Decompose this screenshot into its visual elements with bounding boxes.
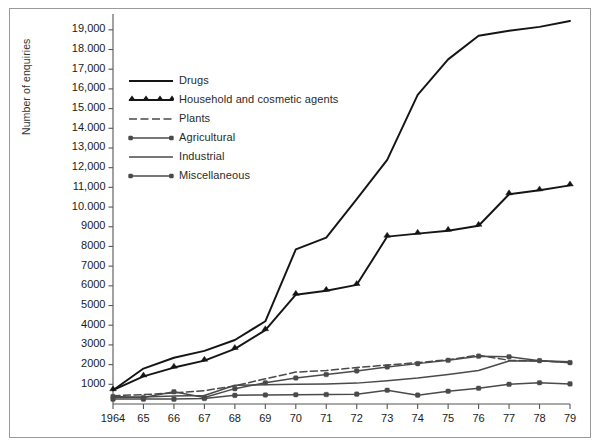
chart-figure: Number of enquiries 10002000300040005000… [0,0,600,447]
series-marker-dot [507,382,512,387]
series-marker-triangle [506,190,513,195]
series-marker-dot [111,397,116,402]
series-marker-dot [446,358,451,363]
series-marker-dot [263,393,268,398]
data-series [113,355,570,396]
series-marker-dot [294,376,299,381]
series-marker-dot [446,389,451,394]
series-marker-dot [476,354,481,359]
series-marker-dot [415,361,420,366]
legend-swatch-dashed-line-icon [128,111,174,125]
series-marker-triangle [445,226,452,231]
series-marker-dot [324,372,329,377]
series-marker-dot [141,397,146,402]
chart-legend: DrugsHousehold and cosmetic agentsPlants… [128,70,338,184]
legend-item-label: Industrial [179,150,225,162]
series-marker-dot [294,392,299,397]
series-marker-dot [324,392,329,397]
legend-swatch-solid-line-icon [128,73,174,87]
legend-swatch-solid-line-dot-icon [128,168,174,182]
series-marker-dot [385,388,390,393]
series-marker-triangle [567,181,574,186]
legend-swatch-solid-line-triangle-icon [128,92,174,106]
legend-item-label: Plants [179,112,210,124]
plot-area [0,0,600,447]
series-marker-dot [202,396,207,401]
series-marker-dot [233,393,238,398]
legend-item-label: Miscellaneous [179,169,250,181]
legend-item[interactable]: Plants [128,108,338,127]
series-marker-triangle [323,286,330,291]
legend-item-label: Drugs [179,74,209,86]
series-marker-triangle [140,372,147,377]
series-marker-dot [233,386,238,391]
series-marker-dot [415,393,420,398]
series-line [113,356,570,397]
legend-item[interactable]: Household and cosmetic agents [128,89,338,108]
series-marker-triangle [171,363,178,368]
series-marker-dot [172,397,177,402]
series-marker-dot [172,389,177,394]
series-marker-dot [537,380,542,385]
series-marker-dot [354,369,359,374]
series-marker-dot [507,354,512,359]
legend-swatch-solid-line-dot-icon [128,130,174,144]
series-marker-dot [568,382,573,387]
legend-item-label: Household and cosmetic agents [179,93,338,105]
legend-item[interactable]: Industrial [128,146,338,165]
series-marker-dot [354,392,359,397]
series-marker-dot [385,365,390,370]
series-line [113,355,570,396]
data-series [111,354,573,400]
series-marker-triangle [292,290,299,295]
series-marker-triangle [384,232,391,237]
series-marker-triangle [536,186,543,191]
legend-item-label: Agricultural [179,131,235,143]
legend-item[interactable]: Miscellaneous [128,165,338,184]
legend-swatch-solid-line-icon [128,149,174,163]
series-marker-triangle [414,229,421,234]
legend-item[interactable]: Agricultural [128,127,338,146]
legend-item[interactable]: Drugs [128,70,338,89]
series-marker-dot [476,386,481,391]
